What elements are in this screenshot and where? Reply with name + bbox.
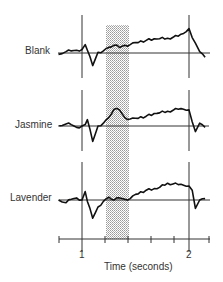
chart: Blank Jasmine Lavender 1 2 Time (seconds… xyxy=(0,0,223,282)
x-tick-2: 2 xyxy=(186,249,192,260)
label-lavender: Lavender xyxy=(10,192,52,203)
trace-lavender xyxy=(59,183,206,218)
label-blank: Blank xyxy=(25,45,51,56)
x-tick-1: 1 xyxy=(79,249,85,260)
traces xyxy=(59,29,206,219)
trace-jasmine xyxy=(59,108,206,141)
trace-blank xyxy=(59,29,206,66)
shaded-interval xyxy=(106,25,129,239)
x-axis-label: Time (seconds) xyxy=(104,261,173,272)
label-jasmine: Jasmine xyxy=(15,119,53,130)
reference-lines xyxy=(82,15,189,252)
